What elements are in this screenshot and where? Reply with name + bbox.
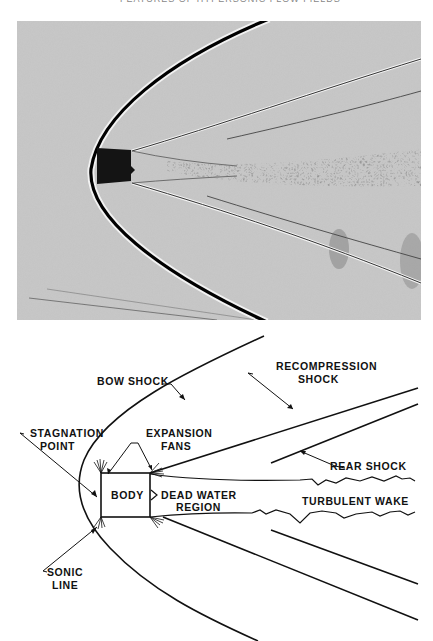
running-header: FEATURES OF HYPERSONIC FLOW FIELDS (120, 0, 341, 4)
label-body: BODY (111, 489, 144, 501)
lower-recompression-shock-line (163, 517, 418, 620)
lower-rear-shock-line (271, 530, 418, 584)
label-turbulent-wake: TURBULENT WAKE (302, 495, 409, 507)
shadowgraph-photo (17, 21, 421, 320)
label-expansion-fans-line2: FANS (161, 440, 191, 452)
label-sonic-line-line1: SONIC (47, 566, 83, 578)
label-stagnation-point-line2: POINT (40, 440, 75, 452)
label-recompression-shock-line2: SHOCK (298, 373, 339, 385)
label-sonic-line-line2: LINE (52, 579, 78, 591)
label-recompression-shock-line1: RECOMPRESSION (276, 360, 377, 372)
shadowgraph-image (17, 21, 421, 320)
flow-field-diagram: BOW SHOCK RECOMPRESSION SHOCK STAGNATION… (0, 320, 433, 641)
label-expansion-fans-line1: EXPANSION (146, 427, 212, 439)
label-rear-shock: REAR SHOCK (330, 460, 407, 472)
page-header: FEATURES OF HYPERSONIC FLOW FIELDS (0, 0, 433, 6)
label-bow-shock: BOW SHOCK (97, 375, 169, 387)
label-dead-water-line2: REGION (176, 501, 221, 513)
label-stagnation-point-line1: STAGNATION (30, 427, 104, 439)
wake-upper-boundary (150, 474, 415, 485)
label-dead-water-line1: DEAD WATER (161, 489, 237, 501)
rear-shock-line (271, 404, 418, 463)
